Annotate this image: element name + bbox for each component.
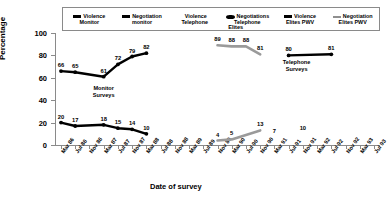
y-tick-label: 20 (23, 119, 47, 128)
data-point-label: 89 (214, 36, 220, 42)
x-axis-label: Date of survey (150, 182, 202, 191)
data-point-marker (329, 52, 333, 56)
legend-label-secondary: Elites PWV (286, 20, 314, 26)
data-point-marker (145, 51, 149, 55)
legend-item-1[interactable]: ViolenceMonitor (63, 8, 116, 30)
data-point-label: 88 (228, 37, 234, 43)
y-tick-label: 40 (23, 96, 47, 105)
y-tick-label: 100 (23, 29, 47, 38)
legend-key-icon (333, 16, 341, 18)
y-tick-label: 60 (23, 74, 47, 83)
data-point-label: 18 (100, 116, 106, 122)
y-axis-label: Percentage (0, 17, 7, 60)
data-point-marker (130, 127, 134, 131)
data-point-marker (59, 69, 63, 73)
y-tick-label: 80 (23, 51, 47, 60)
data-point-label: 4 (216, 132, 219, 138)
y-tick-label: 0 (23, 141, 47, 150)
data-point-label: 88 (243, 37, 249, 43)
legend-item-5[interactable]: ViolenceElites PWV (274, 8, 327, 30)
legend-label-secondary: Telephone (181, 20, 208, 26)
annotation-line-1: Elites (228, 24, 243, 31)
data-point-marker (102, 123, 106, 127)
legend-label-secondary: Monitor (79, 20, 99, 26)
data-point-marker (73, 70, 77, 74)
data-point-label: 79 (129, 48, 135, 54)
data-point-label: 5 (230, 130, 233, 136)
series-line (289, 54, 332, 55)
data-point-label: 72 (115, 55, 121, 61)
annotation-elites: Elites (228, 24, 243, 31)
data-point-marker (116, 63, 120, 67)
legend-key-icon (284, 15, 292, 18)
series-line (218, 130, 261, 140)
legend-label-secondary: monitor (132, 20, 152, 26)
data-point-marker (102, 75, 106, 79)
annotation-monitor-surveys: MonitorSurveys (93, 85, 115, 99)
data-point-marker (116, 126, 120, 130)
legend-key-icon (122, 15, 130, 18)
data-point-label: 10 (143, 125, 149, 131)
data-point-label: 20 (58, 114, 64, 120)
data-point-label: 66 (58, 62, 64, 68)
data-point-label: 13 (257, 121, 263, 127)
chart-legend: ViolenceMonitorNegotiationmonitorViolenc… (62, 7, 380, 31)
annotation-line-2: Surveys (283, 66, 311, 73)
data-point-label: 81 (257, 45, 263, 51)
legend-label-secondary: Elites PWV (339, 20, 367, 26)
data-point-label: 61 (100, 68, 106, 74)
annotation-line-2: Surveys (93, 92, 115, 99)
annotation-telephone-surveys: TelephoneSurveys (283, 59, 311, 73)
legend-item-2[interactable]: Negotiationmonitor (116, 8, 169, 30)
plot-area: 020406080100 Mar 86Jul 86Nov 86Mar 87Jul… (55, 33, 380, 145)
legend-item-3[interactable]: ViolenceTelephone (168, 8, 221, 30)
data-point-marker (59, 121, 63, 125)
data-point-label: 65 (72, 63, 78, 69)
data-point-label: 82 (143, 44, 149, 50)
annotation-line-1: Monitor (93, 85, 115, 92)
data-point-label: 15 (115, 119, 121, 125)
data-point-label: 81 (328, 45, 334, 51)
data-point-marker (73, 124, 77, 128)
data-point-marker (130, 55, 134, 59)
legend-key-icon (73, 15, 81, 18)
series-line (218, 45, 261, 54)
data-point-label: 10 (300, 125, 306, 131)
data-point-label: 7 (273, 128, 276, 134)
data-point-label: 14 (129, 120, 135, 126)
data-point-label: 17 (72, 117, 78, 123)
annotation-line-1: Telephone (283, 59, 311, 66)
legend-item-6[interactable]: NegotiationElites PWV (326, 8, 379, 30)
data-point-label: 80 (285, 46, 291, 52)
data-point-marker (145, 132, 149, 136)
y-tick (51, 145, 55, 146)
data-point-marker (287, 54, 291, 58)
